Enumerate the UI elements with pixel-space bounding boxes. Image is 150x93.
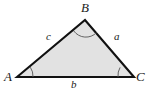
vertex-label-a: A — [4, 70, 12, 83]
side-label-b: b — [71, 79, 77, 90]
side-label-c: c — [46, 31, 51, 42]
triangle-shape — [17, 20, 134, 77]
triangle-figure: A B C a b c — [0, 0, 150, 93]
vertex-label-b: B — [81, 1, 89, 14]
vertex-label-c: C — [136, 70, 145, 83]
side-label-a: a — [114, 31, 120, 42]
